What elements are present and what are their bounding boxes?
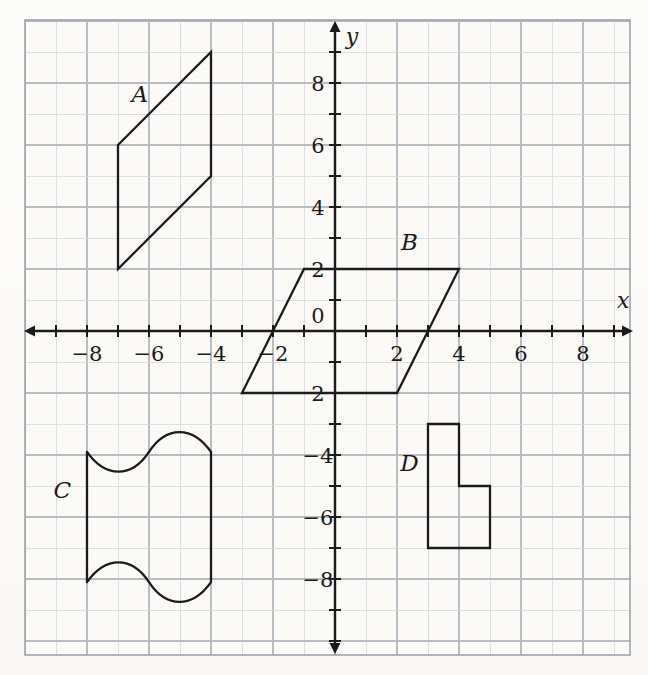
y-tick-label: −4 [303, 444, 334, 468]
shape-label-b: B [400, 229, 418, 255]
y-tick-label: 4 [311, 196, 324, 220]
shape-label-d: D [399, 450, 418, 476]
y-tick-label: 8 [311, 72, 324, 96]
x-tick-label: 6 [514, 342, 527, 366]
coordinate-plane: −8−6−4−2246886422−4−6−80xyABCD [0, 0, 648, 675]
x-tick-label: −6 [134, 342, 165, 366]
shape-label-c: C [53, 477, 71, 503]
shape-label-a: A [129, 81, 148, 107]
plot-field [25, 20, 630, 655]
x-axis-label: x [617, 288, 630, 313]
x-tick-label: 8 [576, 342, 589, 366]
y-tick-label: −6 [303, 506, 334, 530]
y-tick-label: −8 [303, 568, 334, 592]
origin-label: 0 [311, 304, 324, 328]
y-tick-label: 6 [311, 134, 324, 158]
x-tick-label: 2 [390, 342, 403, 366]
x-tick-label: −4 [196, 342, 227, 366]
x-tick-label: 4 [452, 342, 465, 366]
figure-page: −8−6−4−2246886422−4−6−80xyABCD [0, 0, 648, 675]
y-axis-label: y [345, 24, 359, 49]
x-tick-label: −8 [72, 342, 103, 366]
